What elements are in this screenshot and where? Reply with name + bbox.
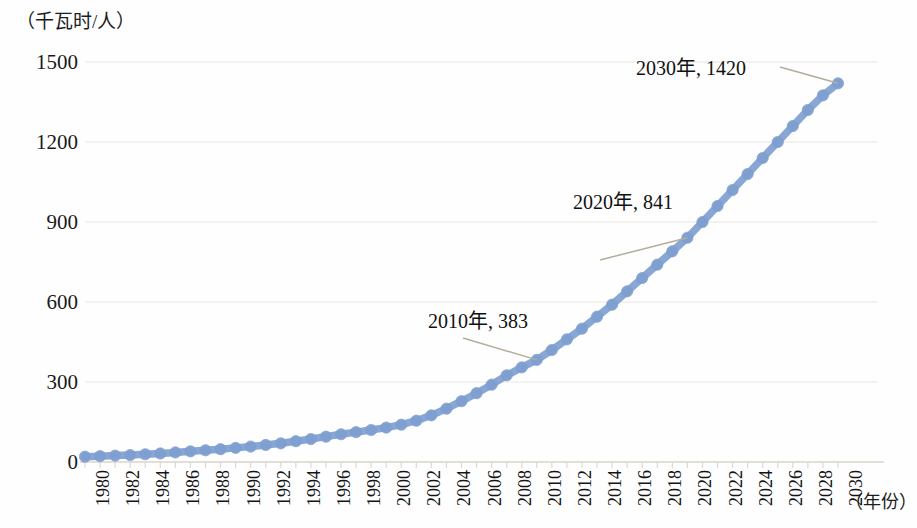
- x-axis-tick-label: 2004: [454, 470, 475, 506]
- x-axis-tick-label: 2018: [665, 470, 686, 506]
- x-axis-tick-label: 1986: [183, 470, 204, 506]
- x-axis-tick-label: 2012: [575, 470, 596, 506]
- x-axis-tick-label: 2006: [485, 470, 506, 506]
- x-axis-tick-label: 1998: [364, 470, 385, 506]
- x-axis-tick-label: 2010: [545, 470, 566, 506]
- x-axis-tick-label: 2014: [605, 470, 626, 506]
- x-axis-tick-label: 1984: [153, 470, 174, 506]
- annotation-2020: 2020年, 841: [573, 186, 673, 215]
- x-axis-tick-label: 1982: [123, 470, 144, 506]
- x-axis-tick-label: 2022: [726, 470, 747, 506]
- x-axis-tick-label: 1980: [93, 470, 114, 506]
- x-axis-tick-label: 2024: [756, 470, 777, 506]
- x-axis-tick-label: 2000: [394, 470, 415, 506]
- annotation-2030: 2030年, 1420: [636, 52, 746, 81]
- x-axis-tick-label: 2030: [846, 470, 867, 506]
- x-axis-tick-label: 2008: [515, 470, 536, 506]
- x-axis-tick-label: 2026: [786, 470, 807, 506]
- x-axis-tick-label: 2016: [635, 470, 656, 506]
- line-chart: （千瓦时/人） （年份） 030060090012001500 19801982…: [0, 0, 917, 528]
- x-axis-tick-label: 2002: [424, 470, 445, 506]
- x-axis-tick-label: 2020: [695, 470, 716, 506]
- x-axis-tick-label: 2028: [816, 470, 837, 506]
- x-axis-tick-label: 1992: [274, 470, 295, 506]
- x-axis-tick-labels: 1980198219841986198819901992199419961998…: [0, 0, 917, 528]
- x-axis-tick-label: 1996: [334, 470, 355, 506]
- x-axis-tick-label: 1994: [304, 470, 325, 506]
- x-axis-tick-label: 1988: [213, 470, 234, 506]
- x-axis-tick-label: 1990: [244, 470, 265, 506]
- annotation-2010: 2010年, 383: [428, 305, 528, 334]
